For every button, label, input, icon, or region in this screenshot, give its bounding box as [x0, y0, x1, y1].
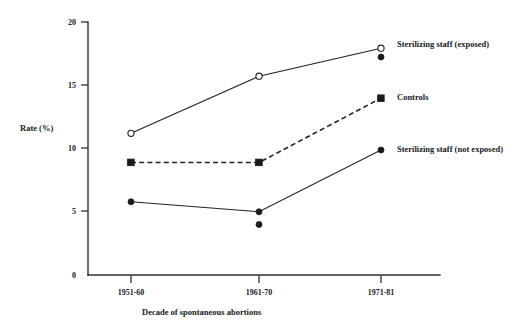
- x-tick-labels: 1951-60 1961-70 1971-81: [118, 288, 395, 297]
- y-tick-label-10: 10: [68, 144, 76, 153]
- extra-point-1961-70: [256, 222, 262, 228]
- extra-point-1971-81: [378, 54, 384, 60]
- y-tick-marks: [81, 22, 88, 211]
- series-controls: [128, 95, 385, 166]
- series-label-sterilizing-staff-exposed: Sterilizing staff (exposed): [397, 39, 489, 49]
- y-axis-title: Rate (%): [20, 123, 53, 133]
- x-tick-label-1971-81: 1971-81: [368, 288, 395, 297]
- y-tick-label-15: 15: [68, 81, 76, 90]
- series-3-point-1951-60: [128, 199, 134, 205]
- series-label-sterilizing-staff-not-exposed: Sterilizing staff (not exposed): [397, 144, 503, 154]
- chart-container: 20 15 10 5 0 Rate (%) 1951-60 1961-70 19…: [0, 0, 524, 326]
- series-1-line: [131, 48, 381, 133]
- extra-data-points: [256, 54, 384, 228]
- series-label-group: Sterilizing staff (exposed) Controls Ste…: [397, 39, 503, 154]
- series-sterilizing-staff-exposed: [128, 45, 384, 136]
- series-2-point-1961-70: [256, 159, 263, 166]
- y-tick-label-20: 20: [68, 18, 76, 27]
- series-3-point-1961-70: [256, 209, 262, 215]
- x-tick-label-1951-60: 1951-60: [118, 288, 145, 297]
- series-1-point-1951-60: [128, 130, 134, 136]
- x-tick-label-1961-70: 1961-70: [246, 288, 273, 297]
- series-1-point-1971-81: [378, 45, 384, 51]
- series-label-controls: Controls: [397, 92, 429, 102]
- series-sterilizing-staff-not-exposed: [128, 147, 384, 215]
- series-2-line: [131, 98, 381, 162]
- y-tick-label-0: 0: [72, 271, 76, 280]
- series-1-point-1961-70: [256, 73, 262, 79]
- axes-group: [88, 22, 440, 275]
- y-tick-labels: 20 15 10 5 0: [68, 18, 76, 280]
- x-axis-title: Decade of spontaneous abortions: [142, 307, 262, 317]
- series-3-point-1971-81: [378, 147, 384, 153]
- series-2-point-1951-60: [128, 159, 135, 166]
- series-2-point-1971-81: [378, 95, 385, 102]
- y-tick-label-5: 5: [72, 207, 76, 216]
- x-tick-marks: [131, 275, 381, 283]
- line-chart-canvas: 20 15 10 5 0 Rate (%) 1951-60 1961-70 19…: [0, 0, 524, 326]
